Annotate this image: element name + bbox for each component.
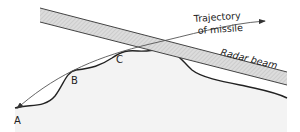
label-point-a: A	[14, 115, 21, 126]
radar-terrain-diagram: A B C Trajectory of missile Radar beam	[0, 0, 300, 132]
label-trajectory-line2: of missile	[197, 22, 243, 36]
label-point-c: C	[116, 54, 123, 65]
label-point-b: B	[71, 75, 78, 86]
